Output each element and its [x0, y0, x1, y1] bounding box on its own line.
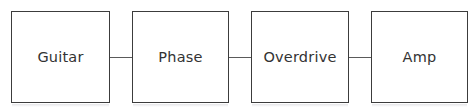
node-guitar-label: Guitar	[37, 50, 83, 65]
box-shadow-artifact	[252, 104, 348, 107]
node-overdrive-label: Overdrive	[263, 50, 336, 65]
box-shadow-artifact	[133, 104, 228, 107]
box-shadow-artifact	[12, 104, 109, 107]
connector-phase-to-overdrive	[229, 57, 251, 58]
connector-guitar-to-phase	[110, 57, 132, 58]
node-phase-label: Phase	[158, 50, 202, 65]
node-amp-label: Amp	[403, 50, 437, 65]
signal-chain-diagram: Guitar Phase Overdrive Amp	[0, 0, 476, 110]
node-phase[interactable]: Phase	[132, 11, 229, 103]
connector-overdrive-to-amp	[349, 57, 371, 58]
node-amp[interactable]: Amp	[371, 11, 468, 103]
box-shadow-artifact	[372, 104, 467, 107]
node-guitar[interactable]: Guitar	[11, 11, 110, 103]
node-overdrive[interactable]: Overdrive	[251, 11, 349, 103]
